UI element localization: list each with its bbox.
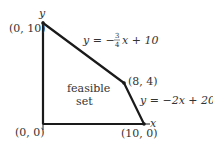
constraint-1-frac-num: 3 xyxy=(115,32,119,40)
constraint-1-frac-den: 4 xyxy=(115,41,120,49)
feasible-set-diagram: y x (0, 10) (8, 4) (0, 0) (10, 0) y = − … xyxy=(0,0,213,142)
label-0-0: (0, 0) xyxy=(15,126,45,139)
y-axis-label: y xyxy=(38,7,46,20)
vertex-10-0 xyxy=(142,122,146,126)
label-10-0: (10, 0) xyxy=(121,127,158,140)
label-8-4: (8, 4) xyxy=(128,75,158,88)
region-label-line1: feasible xyxy=(67,82,110,95)
constraint-1-label-suffix: x + 10 xyxy=(122,34,158,47)
constraint-2-label: y = −2x + 20 xyxy=(139,94,213,107)
region-label-line2: set xyxy=(76,95,93,108)
label-0-10: (0, 10) xyxy=(9,22,46,35)
constraint-1-label: y = − xyxy=(82,34,115,47)
vertex-8-4 xyxy=(122,81,126,85)
